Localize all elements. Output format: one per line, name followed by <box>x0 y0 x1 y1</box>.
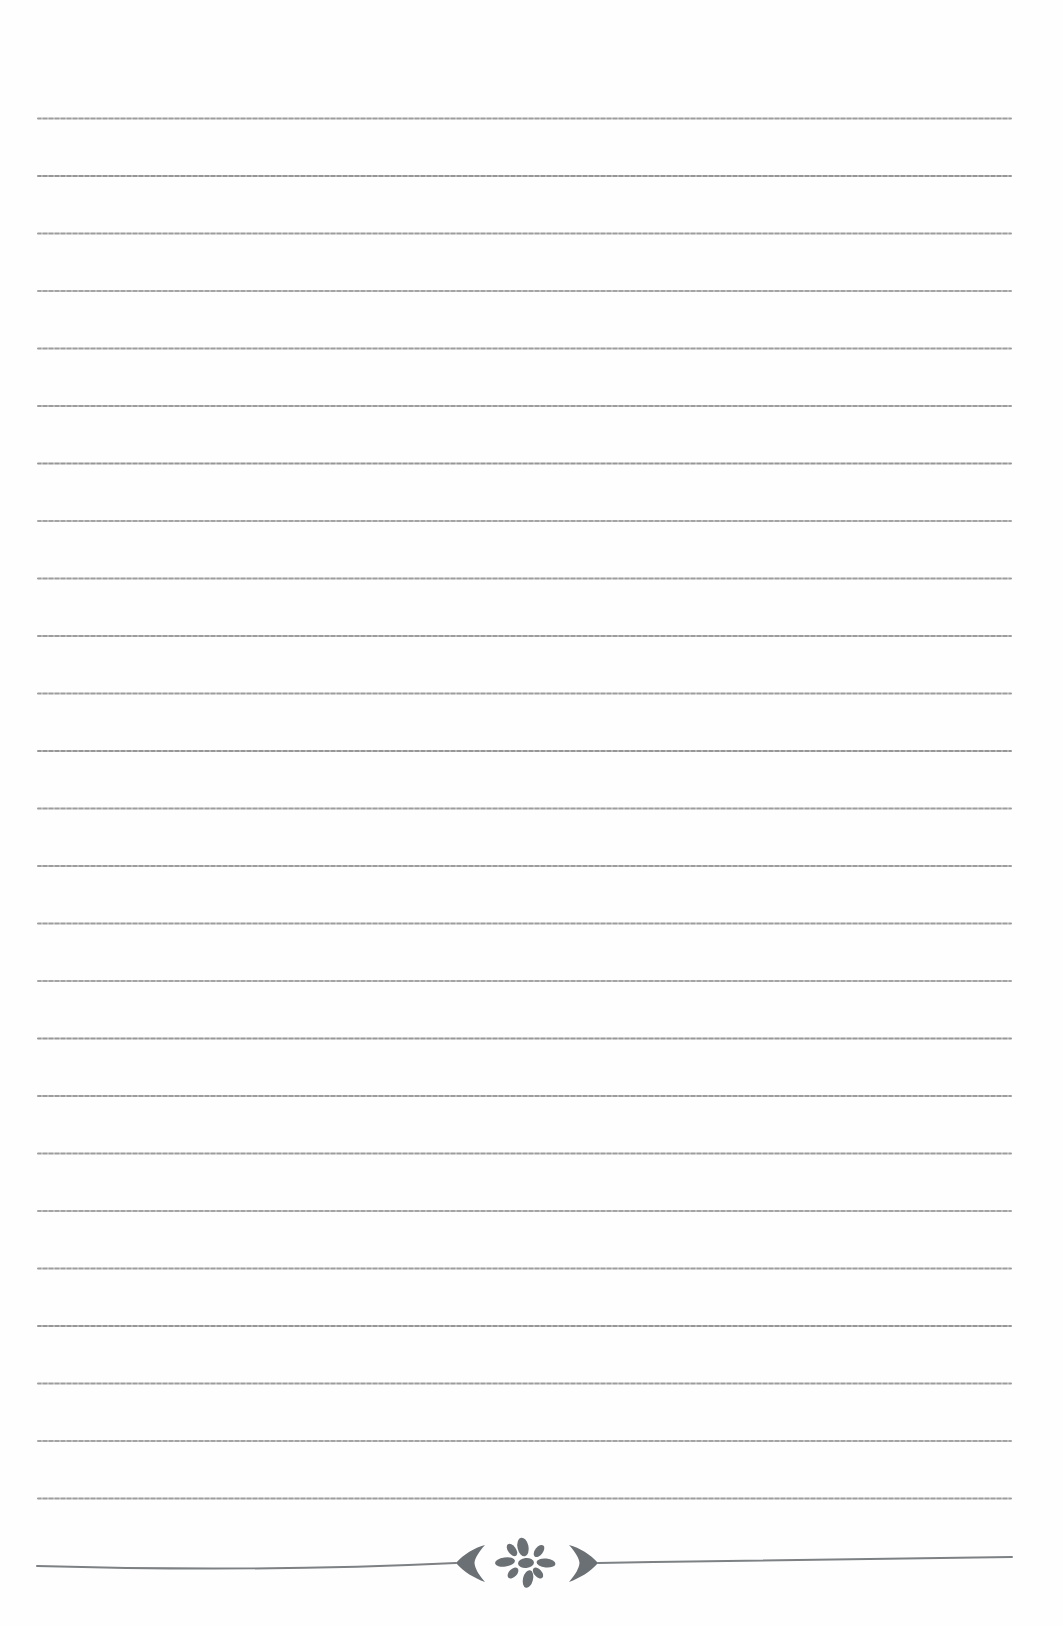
flower-ornament-icon <box>494 1537 555 1589</box>
ruled-line <box>37 693 1012 695</box>
ruled-line <box>37 750 1012 752</box>
ruled-line <box>37 578 1012 580</box>
ruled-line <box>37 348 1012 350</box>
ruled-line <box>37 635 1012 637</box>
ruled-line <box>37 923 1012 925</box>
ruled-line <box>37 405 1012 407</box>
ruled-line <box>37 980 1012 982</box>
ruled-line <box>37 808 1012 810</box>
ruled-line <box>37 118 1012 120</box>
ruled-line <box>37 1325 1012 1327</box>
left-chevron-icon <box>456 1545 485 1582</box>
divider-line-right <box>598 1557 1012 1563</box>
ruled-line <box>37 1095 1012 1097</box>
divider-line-left <box>37 1563 456 1568</box>
ruled-line <box>37 1268 1012 1270</box>
right-chevron-icon <box>569 1545 598 1582</box>
ruled-line <box>37 1440 1012 1442</box>
ruled-line <box>37 1038 1012 1040</box>
ruled-line <box>37 520 1012 522</box>
ruled-line <box>37 233 1012 235</box>
ruled-line <box>37 1383 1012 1385</box>
ruled-line <box>37 175 1012 177</box>
ruled-line <box>37 1498 1012 1500</box>
ruled-line <box>37 1210 1012 1212</box>
bottom-divider <box>0 1528 1063 1603</box>
ruled-line <box>37 1153 1012 1155</box>
notebook-page <box>0 0 1063 1626</box>
ruled-line <box>37 463 1012 465</box>
ruled-line <box>37 865 1012 867</box>
ruled-line <box>37 290 1012 292</box>
